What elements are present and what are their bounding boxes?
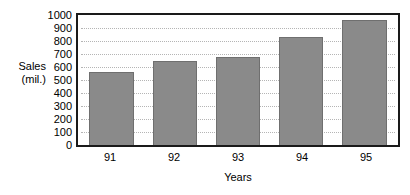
bar[interactable] [89,72,133,145]
y-axis-tick-label: 0 [20,140,72,151]
bars-layer [78,15,398,145]
x-axis-tick-label: 92 [142,150,206,166]
bar-slot [143,15,206,145]
y-axis-tick-label: 500 [20,75,72,86]
x-axis-tick-label: 94 [270,150,334,166]
y-axis-tick-label: 700 [20,49,72,60]
bar-slot [270,15,333,145]
y-axis-tick-label: 200 [20,114,72,125]
x-axis-tick-label: 93 [206,150,270,166]
y-axis-tick-labels: 01002003004005006007008009001000 [20,13,72,147]
bar-slot [80,15,143,145]
y-axis-tick-label: 100 [20,127,72,138]
x-axis-title: Years [76,171,400,184]
y-axis-tick-label: 1000 [20,10,72,21]
bar-chart: Sales (mil.) 010020030040050060070080090… [0,0,410,195]
y-axis-tick-label: 400 [20,88,72,99]
x-axis-tick-label: 95 [334,150,398,166]
y-axis-tick-label: 800 [20,36,72,47]
y-axis-tick-label: 900 [20,23,72,34]
bar[interactable] [342,20,386,145]
y-axis-tick-label: 600 [20,62,72,73]
bar-slot [206,15,269,145]
bar[interactable] [279,37,323,145]
y-axis-tick-label: 300 [20,101,72,112]
x-axis-tick-label: 91 [78,150,142,166]
plot-area [76,13,400,147]
x-axis-tick-labels: 9192939495 [76,150,400,166]
bar[interactable] [216,57,260,145]
bar-slot [333,15,396,145]
bar[interactable] [153,61,197,146]
